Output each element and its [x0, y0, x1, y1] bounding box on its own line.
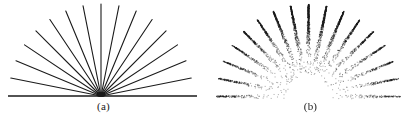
caption-b: (b): [207, 100, 414, 112]
panel-a-artwork: [0, 0, 207, 103]
caption-a: (a): [0, 100, 207, 112]
fan-diagram-clean: [0, 0, 207, 103]
panel-b: (b): [207, 0, 414, 124]
fan-diagram-degraded: [207, 0, 414, 103]
figure-container: (a) (b): [0, 0, 414, 124]
panel-a: (a): [0, 0, 207, 124]
panel-b-artwork: [207, 0, 414, 103]
